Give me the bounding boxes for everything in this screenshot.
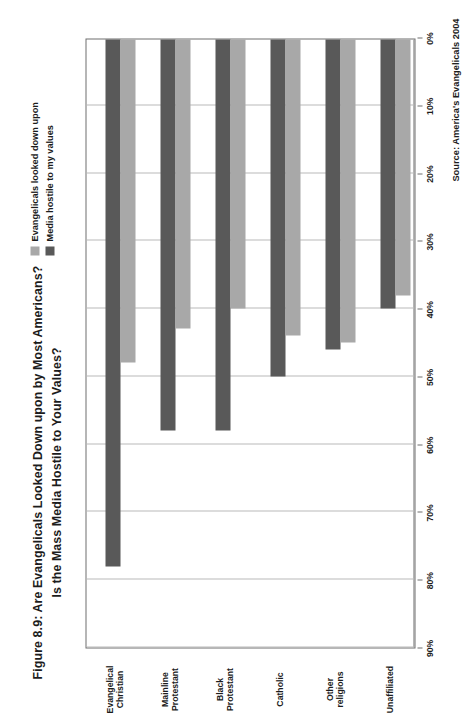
bar-media-hostile-4 [325,38,340,349]
category-label-mainline-protestant: MainlineProtestant [159,656,181,722]
tick-label-80: 80% [424,572,434,589]
legend-label-evangelicals-looked-down: Evangelicals looked down upon [30,102,39,241]
bar-looked-down-0 [120,38,135,362]
tick-mark-60 [417,444,422,445]
tick-label-10: 10% [424,97,434,114]
category-label-unaffiliated: Unaffiliated [384,656,395,722]
tick-mark-10 [417,105,422,106]
bar-media-hostile-3 [270,38,285,376]
tick-label-30: 30% [424,233,434,250]
figure-title: Figure 8.9: Are Evangelicals Looked Down… [28,257,66,687]
tick-label-50: 50% [424,368,434,385]
tick-mark-0 [417,37,422,38]
tick-label-60: 60% [424,436,434,453]
figure-title-line-2: Is the Mass Media Hostile to Your Values… [47,257,66,687]
x-axis-ticks: 0%10%20%30%40%50%60%70%80%90% [417,38,451,648]
tick-mark-50 [417,376,422,377]
bar-looked-down-2 [230,38,245,308]
category-axis-labels: EvangelicalChristianMainlineProtestantBl… [85,652,415,720]
bar-looked-down-5 [395,38,410,295]
figure-root: Figure 8.9: Are Evangelicals Looked Down… [0,0,474,723]
tick-label-0: 0% [424,32,434,44]
tick-label-90: 90% [424,639,434,656]
gridline-70 [86,510,414,511]
bar-media-hostile-5 [380,38,395,308]
tick-mark-70 [417,511,422,512]
tick-mark-80 [417,579,422,580]
bar-media-hostile-2 [215,38,230,430]
tick-label-20: 20% [424,165,434,182]
bar-looked-down-4 [340,38,355,342]
bar-looked-down-1 [175,38,190,328]
gridline-80 [86,578,414,579]
bar-looked-down-3 [285,38,300,335]
gridline-90 [86,646,414,647]
legend-swatch-dark-icon [45,246,54,255]
tick-label-70: 70% [424,504,434,521]
tick-mark-20 [417,173,422,174]
gridline-60 [86,443,414,444]
category-label-other-religions: Otherreligions [324,656,346,722]
figure-title-line-1: Figure 8.9: Are Evangelicals Looked Down… [30,265,44,679]
legend-item-evangelicals-looked-down: Evangelicals looked down upon [30,102,39,255]
tick-mark-40 [417,308,422,309]
axis-baseline [413,39,414,647]
legend-item-media-hostile: Media hostile to my values [45,102,54,255]
category-label-catholic: Catholic [274,656,285,722]
legend-label-media-hostile: Media hostile to my values [45,125,54,241]
tick-mark-90 [417,647,422,648]
tick-mark-30 [417,240,422,241]
bar-media-hostile-0 [105,38,120,566]
category-label-evangelical-christian: EvangelicalChristian [104,656,126,722]
category-label-black-protestant: BlackProtestant [214,656,236,722]
plot-area [85,38,415,648]
gridline-50 [86,375,414,376]
chart-legend: Evangelicals looked down upon Media host… [30,102,60,255]
tick-label-40: 40% [424,301,434,318]
source-note: Source: America's Evangelicals 2004 [450,18,460,181]
plot-outer: 0%10%20%30%40%50%60%70%80%90% Evangelica… [85,38,415,648]
bar-media-hostile-1 [160,38,175,430]
legend-swatch-light-icon [30,246,39,255]
